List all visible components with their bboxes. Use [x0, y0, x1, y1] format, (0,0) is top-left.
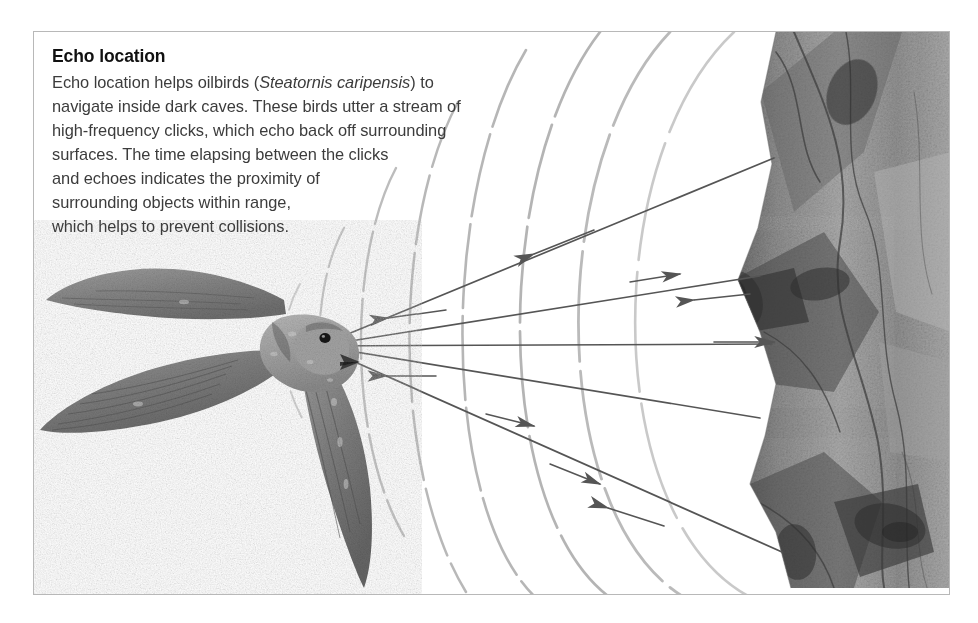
caption-line-4: surfaces. The time elapsing between the … — [52, 143, 612, 167]
caption-line-1-post: ) to — [410, 73, 433, 91]
caption-body: Echo location helps oilbirds (Steatornis… — [52, 71, 612, 239]
bird-upper-wing — [46, 269, 286, 320]
page-title: Echo location — [52, 46, 612, 68]
illustration-panel: Echo location Echo location helps oilbir… — [33, 31, 950, 595]
caption-line-2: navigate inside dark caves. These birds … — [52, 95, 612, 119]
caption-line-5: and echoes indicates the proximity of — [52, 167, 612, 191]
echo-location-figure: Echo location Echo location helps oilbir… — [0, 0, 978, 623]
caption-line-1: Echo location helps oilbirds (Steatornis… — [52, 71, 612, 95]
bird-eye — [319, 333, 330, 343]
caption-block: Echo location Echo location helps oilbir… — [52, 46, 612, 239]
species-name: Steatornis caripensis — [259, 73, 410, 91]
bird-eye-highlight — [322, 335, 325, 338]
bird-body-group — [40, 269, 372, 588]
caption-line-3: high-frequency clicks, which echo back o… — [52, 119, 612, 143]
caption-line-6: surrounding objects within range, — [52, 191, 612, 215]
bird-lower-wing — [40, 350, 286, 433]
caption-line-7: which helps to prevent collisions. — [52, 215, 612, 239]
caption-line-1-pre: Echo location helps oilbirds ( — [52, 73, 259, 91]
